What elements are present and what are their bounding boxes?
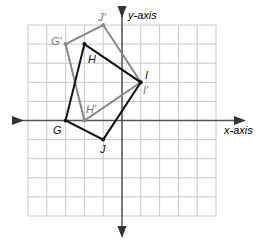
vertex-label-g: G	[53, 124, 62, 136]
vertex-label-h-prime: H'	[86, 103, 97, 115]
x-axis-label: x-axis	[223, 124, 253, 136]
vertex-label-h: H	[88, 53, 96, 65]
vertex-label-i: I	[145, 69, 148, 81]
coordinate-plane: y-axis x-axis G H I J G' J' I' H'	[0, 0, 267, 243]
vertex-label-j-prime: J'	[97, 11, 107, 23]
vertex-label-j: J	[99, 143, 106, 155]
y-axis-label: y-axis	[127, 9, 157, 21]
vertex-label-g-prime: G'	[51, 35, 63, 47]
vertex-label-i-prime: I'	[143, 84, 149, 96]
